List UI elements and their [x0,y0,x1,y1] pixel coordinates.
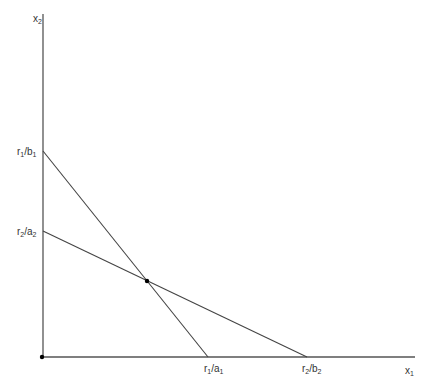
x-intercept-label-r1-a1: r1/a1 [204,363,224,375]
diagram-canvas: x2 x1 r1/b1 r2/a2 r1/a1 r2/b2 [0,0,427,388]
x-axis-label: x1 [405,365,414,377]
y-axis-label: x2 [33,13,42,25]
intersection-point [145,279,149,283]
y-intercept-label-r2-a2: r2/a2 [17,226,37,238]
origin-point [40,355,44,359]
constraint-line-1 [43,151,208,357]
y-intercept-label-r1-b1: r1/b1 [17,146,37,158]
x-intercept-label-r2-b2: r2/b2 [302,363,322,375]
constraint-line-2 [43,231,307,357]
